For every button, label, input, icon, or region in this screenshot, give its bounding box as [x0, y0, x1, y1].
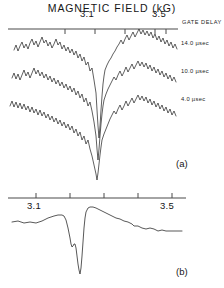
panel-a: 3.1 3.5 GATE DELAY 14.0 µsec 10.0 µsec 4… — [0, 18, 224, 186]
panel-b-plot — [0, 190, 224, 288]
trace-4us — [10, 95, 176, 180]
panel-b: 3.1 3.5 (b) — [0, 190, 224, 288]
trace-derivative — [12, 207, 182, 274]
panel-b-tag: (b) — [176, 266, 188, 277]
figure-root: MAGNETIC FIELD (kG) 3.1 3.5 GATE DELAY 1… — [0, 0, 224, 288]
figure-title: MAGNETIC FIELD (kG) — [0, 2, 224, 14]
panel-a-tickmarks — [65, 29, 166, 34]
trace-14us — [14, 29, 177, 138]
trace-label-10us: 10.0 µsec — [181, 68, 209, 74]
panel-a-tag: (a) — [176, 158, 188, 169]
panel-b-tickmarks — [36, 193, 172, 198]
trace-label-4us: 4.0 µsec — [181, 96, 205, 102]
trace-label-14us: 14.0 µsec — [181, 40, 209, 46]
